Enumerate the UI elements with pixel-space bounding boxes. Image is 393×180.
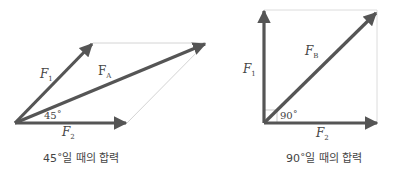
- angle-label-45: 45˚: [44, 110, 62, 121]
- label-fa: FA: [98, 64, 111, 80]
- caption-90: 90˚일 때의 합력: [286, 149, 363, 165]
- label-f2: F2: [62, 125, 75, 141]
- label-f1: F1: [243, 62, 256, 78]
- label-f2: F2: [316, 126, 329, 142]
- diagram-90: [264, 10, 377, 123]
- label-fb: FB: [305, 44, 318, 60]
- angle-label-90: 90˚: [280, 110, 298, 121]
- caption-45: 45˚일 때의 합력: [43, 149, 120, 165]
- label-f1: F1: [40, 67, 53, 83]
- vector-fb-arrow: [264, 13, 376, 123]
